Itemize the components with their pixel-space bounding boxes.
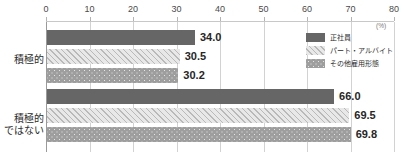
x-axis-tick-80	[394, 17, 395, 21]
x-axis-tick-label-70: 70	[339, 5, 363, 14]
bar-正社員-2	[47, 89, 334, 104]
legend-swatch-dots	[306, 59, 325, 68]
category-label-group2-line1: 積極的	[0, 113, 44, 125]
bar-正社員-1	[47, 30, 195, 45]
category-label-group2-line2: ではない	[0, 125, 44, 137]
bar-パート・アルバイト-1	[47, 49, 180, 64]
x-axis-tick-label-10: 10	[78, 5, 102, 14]
x-axis-tick-label-80: 80	[382, 5, 404, 14]
x-axis-tick-label-40: 40	[208, 5, 232, 14]
bar-value-label: 69.8	[356, 127, 377, 142]
x-axis-tick-label-30: 30	[165, 5, 189, 14]
bar-その他雇用形態-2	[47, 127, 351, 142]
legend-label: その他雇用形態	[330, 58, 379, 70]
x-axis-tick-label-0: 0	[34, 5, 58, 14]
bar-value-label: 69.5	[354, 108, 375, 123]
legend-swatch-solid	[306, 33, 325, 42]
legend-label: パート・アルバイト	[330, 45, 393, 57]
bar-value-label: 30.2	[183, 68, 204, 83]
legend-swatch-hatch	[306, 46, 325, 55]
bar-value-label: 30.5	[185, 49, 206, 64]
x-axis-tick-label-60: 60	[295, 5, 319, 14]
legend-label: 正社員	[330, 32, 351, 44]
bar-その他雇用形態-1	[47, 68, 178, 83]
bar-value-label: 34.0	[200, 30, 221, 45]
bar-パート・アルバイト-2	[47, 108, 349, 123]
category-label-group1: 積極的	[0, 54, 44, 66]
bar-value-label: 66.0	[339, 89, 360, 104]
x-axis-tick-label-20: 20	[121, 5, 145, 14]
x-axis-tick-label-50: 50	[252, 5, 276, 14]
gridline-80	[394, 22, 395, 152]
